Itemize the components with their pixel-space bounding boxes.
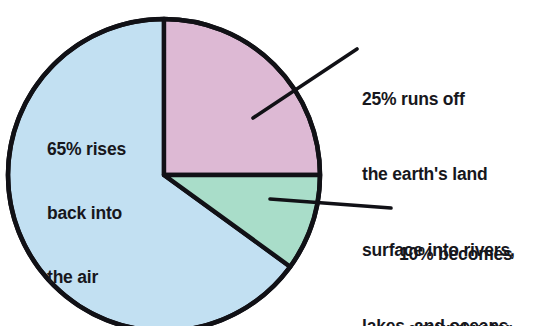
slice-callout-groundwater-line-1: 10% becomes bbox=[399, 242, 513, 267]
slice-callout-runoff-line-2: the earth's land bbox=[362, 162, 515, 187]
slice-label-evaporation-line-3: the air bbox=[47, 267, 167, 288]
slice-label-evaporation-line-1: 65% rises bbox=[47, 139, 167, 160]
slice-callout-groundwater-line-2: groundwater bbox=[399, 317, 513, 326]
pie-chart-figure: 65% rises back into the air from evapora… bbox=[0, 0, 535, 326]
slice-callout-groundwater: 10% becomes groundwater bbox=[399, 191, 513, 326]
slice-label-evaporation: 65% rises back into the air from evapora… bbox=[47, 96, 167, 326]
slice-callout-runoff-line-1: 25% runs off bbox=[362, 87, 515, 112]
slice-label-evaporation-line-2: back into bbox=[47, 203, 167, 224]
